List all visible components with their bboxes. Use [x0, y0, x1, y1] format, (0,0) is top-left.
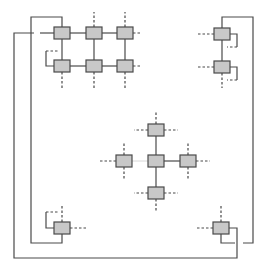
- processor-node-tl-r0c0: [54, 27, 70, 39]
- processor-node-tr-bottom: [214, 61, 230, 73]
- processor-node-tl-r0c2: [117, 27, 133, 39]
- processor-node-tl-r1c0: [54, 60, 70, 72]
- processor-array-diagram: [0, 0, 268, 271]
- processor-node-c-bottom: [148, 187, 164, 199]
- processor-node-bl: [54, 222, 70, 234]
- solid-wire: [46, 212, 54, 228]
- processor-node-c-top: [148, 124, 164, 136]
- processor-node-tr-top: [214, 28, 230, 40]
- processor-node-tl-r1c1: [86, 60, 102, 72]
- solid-wire: [46, 51, 54, 66]
- processor-node-c-center: [148, 155, 164, 167]
- processor-node-c-right: [180, 155, 196, 167]
- solid-wire: [230, 34, 237, 47]
- processor-node-tl-r0c1: [86, 27, 102, 39]
- solid-wire: [222, 17, 253, 243]
- solid-wire: [230, 67, 237, 80]
- dashed-connections: [46, 12, 237, 228]
- processor-node-br: [213, 222, 229, 234]
- processor-node-tl-r1c2: [117, 60, 133, 72]
- solid-wire: [221, 234, 235, 243]
- processor-node-c-left: [116, 155, 132, 167]
